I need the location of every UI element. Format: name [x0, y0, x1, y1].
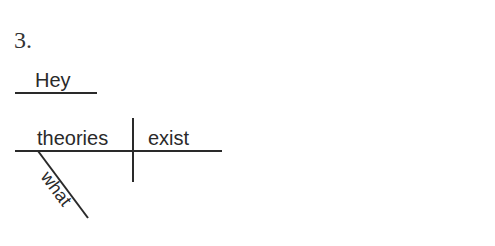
diagram-lines: [0, 0, 495, 246]
subject-word: theories: [37, 128, 108, 148]
verb-word: exist: [148, 128, 189, 148]
independent-element-word: Hey: [35, 70, 71, 90]
